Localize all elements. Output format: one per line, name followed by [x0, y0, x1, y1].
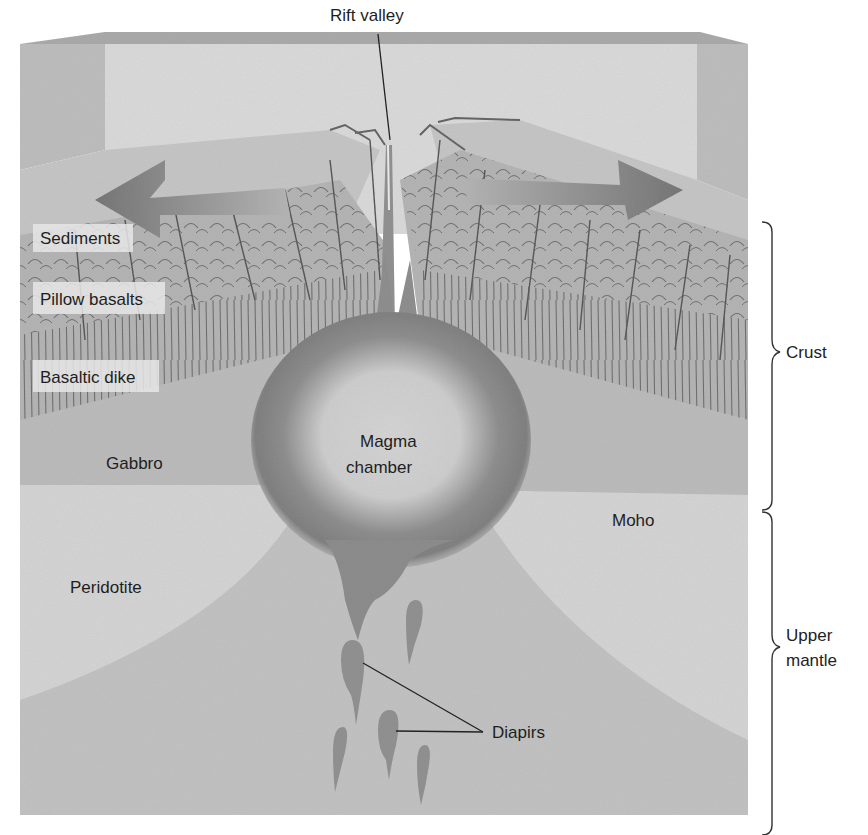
peridotite-label: Peridotite — [70, 578, 142, 597]
right-side-wall — [697, 44, 748, 200]
rift-valley-label: Rift valley — [330, 6, 404, 25]
crust-label: Crust — [786, 343, 827, 362]
basaltic-dike-label: Basaltic dike — [40, 368, 135, 387]
crust-brace — [762, 222, 780, 510]
pillow-basalts-label: Pillow basalts — [40, 290, 143, 309]
magma-chamber-label-line1: Magma — [360, 432, 417, 451]
upper-mantle-brace — [762, 512, 780, 835]
magma-chamber-label-line2: chamber — [346, 458, 412, 477]
upper-mantle-label-line1: Upper — [786, 626, 833, 645]
gabbro-label: Gabbro — [106, 454, 163, 473]
left-side-wall — [20, 44, 105, 170]
block — [20, 32, 748, 815]
mid-ocean-ridge-diagram: Rift valley Sediments Pillow basalts Bas… — [0, 0, 868, 835]
upper-mantle-label-line2: mantle — [786, 651, 837, 670]
diapirs-label: Diapirs — [492, 723, 545, 742]
sediments-label: Sediments — [40, 229, 120, 248]
moho-label: Moho — [612, 511, 655, 530]
